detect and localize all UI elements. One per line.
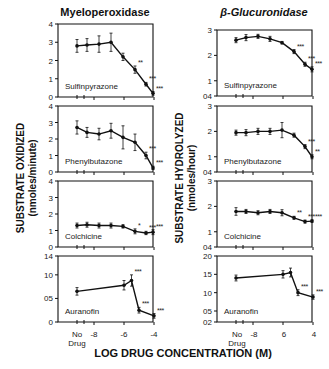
y-tick-label: 14 [44,252,53,261]
y-tick-label: 04 [203,92,212,101]
significance-marker: *** [149,145,156,152]
y-tick-label: 1 [208,77,213,86]
panel-label: Sulfinpyrazone [224,81,277,90]
y-axis-label-left: SUBSTRATE OXIDIZED (nmoles/minute) [15,123,38,233]
y-tick-label: 15 [203,270,212,279]
significance-marker: *** [157,307,164,314]
data-point [151,230,155,234]
data-point [244,131,248,135]
svg-text:No: No [72,330,83,339]
panel-sulfinpyrazone-left: 01234********Sulfinpyrazone [49,20,164,102]
significance-marker: *** [297,43,304,50]
panel-label: Colchicine [224,232,261,241]
significance-marker: ** [138,59,143,66]
panel-colchicine-right: 04123********Colchicine [203,177,322,252]
data-point [289,271,293,275]
data-point [256,211,260,215]
data-point [268,37,272,41]
data-point [151,166,155,170]
y-tick-label: 1 [49,152,54,161]
data-point [144,231,148,235]
y-tick-label: 20 [203,252,212,261]
y-tick-label: 0 [49,318,54,327]
data-point [244,210,248,214]
panel-label: Colchicine [65,232,102,241]
y-tick-label: 1 [208,153,213,162]
data-point [303,62,307,66]
svg-text:-8: -8 [90,330,98,339]
data-point [268,130,272,134]
data-point [85,223,89,227]
data-point [75,290,79,294]
data-point [85,43,89,47]
y-tick-label: 05 [203,307,212,316]
significance-marker: *** [156,223,163,230]
data-point [121,55,125,59]
svg-text:-6: -6 [120,330,128,339]
svg-text:SUBSTRATE OXIDIZED: SUBSTRATE OXIDIZED [15,123,26,233]
panel-label: Phenylbutazone [65,157,123,166]
panel-label: Auranofin [65,307,99,316]
data-point [75,44,79,48]
data-point [234,210,238,214]
significance-marker: *** [149,75,156,82]
significance-marker: *** [315,213,322,220]
y-tick-label: 2 [49,135,54,144]
svg-text:(nmoles/hour): (nmoles/hour) [186,145,197,212]
y-tick-label: 3 [49,194,54,203]
data-point [296,291,300,295]
data-point [292,50,296,54]
panel-colchicine-left: 01234*******Colchicine [49,177,164,252]
data-point [109,224,113,228]
y-tick-label: 0 [49,93,54,102]
title-glucuronidase: β-Glucuronidase [219,6,308,18]
data-point [292,133,296,137]
figure: Myeloperoxidase β-Glucuronidase SUBSTRAT… [0,0,329,369]
significance-marker: *** [301,283,308,290]
significance-marker: ** [297,209,302,216]
data-point [303,220,307,224]
data-point [109,129,113,133]
data-point [133,141,137,145]
x-tick-labels-left: No Drug -8 -6 -4 [68,330,158,348]
data-point [144,82,148,86]
panel-label: Phenylbutazone [224,157,282,166]
panel-auranofin-right: 0205101520******Auranofin [203,252,323,327]
significance-marker: *** [316,288,323,295]
data-point [85,131,89,135]
data-point [310,219,314,223]
data-point [234,276,238,280]
panel-phenylbutazone-right: 04123*****Phenylbutazone [203,102,320,177]
significance-marker: *** [142,300,149,307]
data-point [130,279,134,283]
y-tick-label: 3 [49,119,54,128]
y-tick-label: 05 [44,294,53,303]
title-myeloperoxidase: Myeloperoxidase [60,6,149,18]
data-point [151,92,155,96]
data-point [280,211,284,215]
data-point [97,224,101,228]
data-point [280,128,284,132]
data-point [133,68,137,72]
data-point [234,131,238,135]
y-tick-label: 04 [203,168,212,177]
data-point [268,210,272,214]
y-tick-label: 10 [44,271,53,280]
panel-auranofin-left: 0051014*********Auranofin [44,252,164,327]
panel-phenylbutazone-left: 01234******Phenylbutazone [49,102,164,177]
significance-marker: ** [315,148,320,155]
significance-marker: *** [308,138,315,145]
svg-text:Drug: Drug [68,339,85,348]
data-point [152,314,156,318]
data-point [256,130,260,134]
y-tick-label: 2 [49,210,54,219]
svg-text:-4: -4 [150,330,158,339]
y-tick-label: 4 [49,102,54,111]
data-point [292,216,296,220]
data-point [311,295,315,299]
svg-text:SUBSTRATE HYDROLYZED: SUBSTRATE HYDROLYZED [174,112,185,243]
data-point [137,308,141,312]
svg-text:6: 6 [282,330,287,339]
data-point [109,40,113,44]
data-point [133,230,137,234]
